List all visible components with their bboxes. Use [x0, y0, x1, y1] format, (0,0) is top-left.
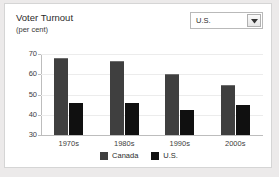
region-select[interactable]: U.S.: [190, 12, 263, 29]
x-axis-tick-label: 1990s: [155, 139, 205, 148]
y-axis-tick: [38, 74, 41, 75]
dropdown-arrow-icon[interactable]: [247, 14, 261, 27]
y-axis-tick-label: 30: [29, 131, 37, 139]
bar-canada-1990s: [165, 74, 179, 135]
y-axis-tick: [38, 135, 41, 136]
x-axis-tick-label: 1970s: [44, 139, 94, 148]
y-axis-tick: [38, 115, 41, 116]
x-axis-tick-label: 1980s: [99, 139, 149, 148]
x-axis-tick-label: 2000s: [210, 139, 260, 148]
legend-item[interactable]: U.S.: [151, 151, 178, 160]
legend-swatch-icon: [151, 152, 159, 160]
chart-widget: Voter Turnout (per cent) U.S. 3040506070…: [4, 3, 272, 168]
legend-item[interactable]: Canada: [100, 151, 138, 160]
chart-legend: CanadaU.S.: [5, 151, 273, 160]
y-axis-tick: [38, 95, 41, 96]
title-block: Voter Turnout (per cent): [16, 12, 73, 35]
bar-us-1990s: [180, 110, 194, 135]
bar-us-1980s: [125, 103, 139, 135]
gridline: [41, 54, 263, 55]
bar-canada-2000s: [221, 85, 235, 135]
y-axis-tick: [38, 54, 41, 55]
y-axis-tick-label: 50: [29, 91, 37, 99]
region-select-value: U.S.: [196, 16, 211, 25]
chart-subtitle: (per cent): [16, 24, 73, 35]
y-axis-tick-labels: 3040506070: [17, 54, 37, 136]
bar-canada-1980s: [110, 61, 124, 135]
bar-canada-1970s: [54, 58, 68, 135]
y-axis-tick-label: 40: [29, 111, 37, 119]
page-title: Voter Turnout: [16, 12, 73, 24]
bar-us-1970s: [69, 103, 83, 135]
legend-label: Canada: [112, 151, 138, 160]
plot-area: 1970s1980s1990s2000s: [41, 54, 263, 135]
y-axis-tick-label: 70: [29, 50, 37, 58]
bar-us-2000s: [236, 105, 250, 135]
legend-label: U.S.: [163, 151, 178, 160]
legend-swatch-icon: [100, 152, 108, 160]
y-axis-tick-label: 60: [29, 70, 37, 78]
gridline: [41, 74, 263, 75]
x-axis-line: [41, 135, 263, 136]
